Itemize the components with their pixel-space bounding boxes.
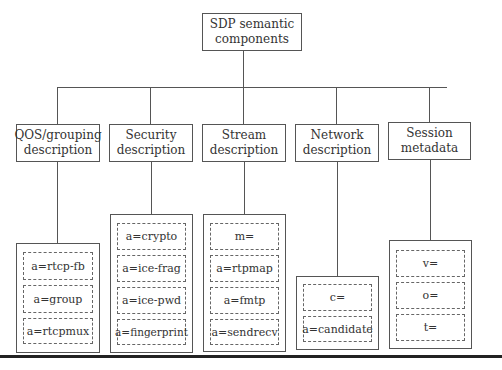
sdp-attribute-a-fingerprint: a=fingerprint: [117, 319, 186, 345]
category-label-line2: description: [210, 143, 279, 158]
container-session-metadata: v= o= t=: [389, 240, 472, 349]
container-qos-grouping: a=rtcp-fb a=group a=rtcpmux: [16, 243, 100, 353]
category-label-line2: metadata: [401, 141, 458, 156]
root-label-line2: components: [215, 32, 289, 47]
connector-network: [336, 87, 337, 124]
connector-stream-down: [244, 162, 245, 214]
category-network: Network description: [295, 124, 379, 162]
sdp-attribute-a-rtpmap: a=rtpmap: [210, 255, 279, 282]
connector-network-down: [337, 162, 338, 276]
connector-qos: [57, 87, 58, 124]
sdp-attribute-a-sendrecv: a=sendrecv: [210, 319, 279, 345]
sdp-attribute-a-ice-pwd: a=ice-pwd: [117, 287, 186, 314]
bottom-rule-divider: [0, 355, 502, 358]
connector-session-down: [430, 160, 431, 240]
sdp-attribute-a-ice-frag: a=ice-frag: [117, 255, 186, 282]
horizontal-bus: [57, 87, 447, 88]
category-label-line2: description: [303, 143, 372, 158]
category-label-line1: Network: [311, 128, 364, 143]
sdp-attribute-m: m=: [210, 223, 279, 250]
root-node-sdp-semantic-components: SDP semantic components: [202, 13, 302, 51]
sdp-attribute-c: c=: [303, 284, 372, 311]
container-stream: m= a=rtpmap a=fmtp a=sendrecv: [203, 214, 286, 352]
category-security: Security description: [109, 124, 193, 162]
connector-security-down: [151, 162, 152, 214]
category-label-line1: Security: [126, 128, 177, 143]
category-label-line1: Session: [406, 126, 452, 141]
sdp-attribute-a-rtcpmux: a=rtcpmux: [23, 318, 93, 344]
category-qos-grouping: QOS/grouping description: [16, 124, 100, 162]
connector-stream: [243, 87, 244, 124]
connector-security: [150, 87, 151, 124]
category-label-line1: Stream: [222, 128, 266, 143]
container-network: c= a=candidate: [296, 276, 379, 350]
root-label-line1: SDP semantic: [210, 17, 295, 32]
sdp-attribute-a-fmtp: a=fmtp: [210, 287, 279, 314]
connector-qos-down: [57, 162, 58, 243]
root-connector: [243, 51, 244, 87]
connector-session: [429, 87, 430, 124]
sdp-attribute-a-rtcp-fb: a=rtcp-fb: [23, 252, 93, 280]
category-label-line2: description: [24, 143, 93, 158]
category-label-line1: QOS/grouping: [14, 128, 101, 143]
sdp-attribute-a-candidate: a=candidate: [303, 316, 372, 342]
container-security: a=crypto a=ice-frag a=ice-pwd a=fingerpr…: [110, 214, 193, 353]
category-label-line2: description: [117, 143, 186, 158]
sdp-attribute-v: v=: [396, 250, 465, 277]
sdp-attribute-a-crypto: a=crypto: [117, 223, 186, 250]
sdp-attribute-t: t=: [396, 314, 465, 341]
sdp-attribute-a-group: a=group: [23, 285, 93, 313]
category-session-metadata: Session metadata: [388, 122, 471, 160]
category-stream: Stream description: [202, 124, 286, 162]
sdp-attribute-o: o=: [396, 282, 465, 309]
